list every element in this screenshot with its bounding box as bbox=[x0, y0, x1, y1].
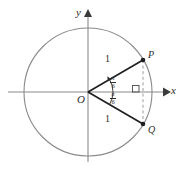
point-p-marker bbox=[141, 58, 146, 63]
figure-canvas bbox=[0, 0, 182, 169]
segment-op-length-label: 1 bbox=[105, 54, 110, 64]
right-angle-marker-icon bbox=[133, 86, 140, 93]
geometry-figure: y x O P Q 1 1 π 6 π 6 bbox=[0, 0, 182, 169]
origin-label: O bbox=[77, 94, 85, 105]
angle-label-upper-denominator: 6 bbox=[111, 83, 114, 90]
segment-oq-length-label: 1 bbox=[105, 114, 110, 124]
angle-label-lower-denominator: 6 bbox=[111, 99, 114, 106]
y-axis-label: y bbox=[76, 7, 81, 18]
point-q-marker bbox=[141, 122, 146, 127]
angle-label-upper-numerator: π bbox=[111, 75, 114, 82]
y-axis-arrow-icon bbox=[84, 9, 92, 17]
point-q-label: Q bbox=[148, 125, 155, 135]
angle-label-upper: π 6 bbox=[110, 75, 116, 90]
angle-label-lower: π 6 bbox=[110, 91, 116, 106]
point-p-label: P bbox=[148, 50, 154, 60]
x-axis-arrow-icon bbox=[163, 88, 171, 97]
angle-label-lower-numerator: π bbox=[111, 91, 114, 98]
x-axis-label: x bbox=[171, 85, 176, 96]
